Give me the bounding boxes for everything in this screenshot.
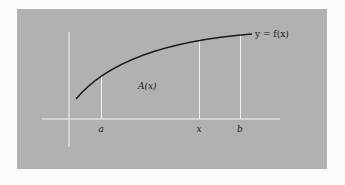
tick-label-b: b bbox=[237, 124, 243, 134]
tick-label-a: a bbox=[99, 124, 104, 134]
curve-label: y = f(x) bbox=[254, 29, 289, 39]
function-curve bbox=[76, 34, 252, 99]
area-function-diagram: y = f(x) A(x) a x b bbox=[0, 0, 345, 185]
area-label: A(x) bbox=[137, 81, 157, 91]
tick-label-x: x bbox=[197, 124, 202, 134]
